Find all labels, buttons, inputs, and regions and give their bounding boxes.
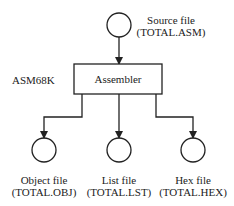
source-file-name: Source file [136, 14, 206, 26]
object-file-name: Object file [4, 174, 84, 186]
list-file-node [107, 138, 131, 162]
object-file-filename: (TOTAL.OBJ) [4, 186, 84, 198]
source-file-label: Source file (TOTAL.ASM) [136, 14, 206, 38]
hex-arrow [156, 94, 193, 138]
object-file-node [32, 138, 56, 162]
assembler-flow-diagram: Source file (TOTAL.ASM) ASM68K Assembler… [0, 0, 234, 206]
hex-file-name: Hex file [153, 174, 233, 186]
list-file-label: List file (TOTAL.LST) [79, 174, 159, 198]
hex-file-label: Hex file (TOTAL.HEX) [153, 174, 233, 198]
hex-file-node [181, 138, 205, 162]
hex-file-filename: (TOTAL.HEX) [153, 186, 233, 198]
source-file-node [107, 13, 131, 37]
object-file-label: Object file (TOTAL.OBJ) [4, 174, 84, 198]
object-arrow [44, 94, 82, 138]
assembler-label: Assembler [74, 73, 162, 85]
list-file-filename: (TOTAL.LST) [79, 186, 159, 198]
asm68k-label: ASM68K [12, 74, 55, 86]
source-file-filename: (TOTAL.ASM) [136, 26, 206, 38]
list-file-name: List file [79, 174, 159, 186]
